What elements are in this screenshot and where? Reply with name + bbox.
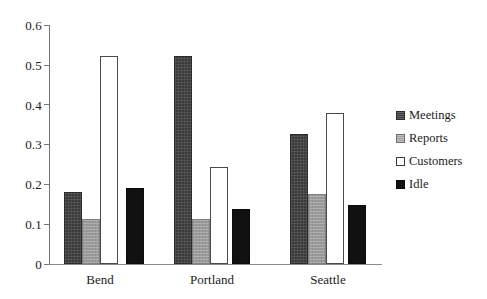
legend-swatch-reports-icon (396, 134, 405, 143)
legend-swatch-customers-icon (396, 157, 405, 166)
bar-group-seattle (290, 25, 380, 264)
y-axis-tick-labels: 0.6 0.5 0.4 0.3 0.2 0.1 0 (0, 0, 42, 299)
legend-label-reports: Reports (409, 132, 448, 145)
bar-seattle-reports (308, 194, 326, 265)
chart-legend: Meetings Reports Customers Idle (396, 104, 486, 196)
y-tick-label: 0.5 (2, 59, 42, 72)
y-tick-label: 0.1 (2, 218, 42, 231)
x-axis-line (49, 264, 382, 265)
bar-group-portland (174, 25, 264, 264)
legend-item-idle: Idle (396, 173, 486, 196)
legend-item-reports: Reports (396, 127, 486, 150)
bar-chart: 0.6 0.5 0.4 0.3 0.2 0.1 0 (0, 0, 487, 299)
bar-portland-customers (210, 167, 228, 264)
legend-label-idle: Idle (409, 178, 428, 191)
bar-bend-idle (126, 188, 144, 264)
legend-item-customers: Customers (396, 150, 486, 173)
x-tick-label-portland: Portland (152, 272, 272, 287)
legend-swatch-meetings-icon (396, 111, 405, 120)
legend-label-meetings: Meetings (409, 109, 456, 122)
legend-label-customers: Customers (409, 155, 462, 168)
bar-seattle-meetings (290, 134, 308, 264)
y-tick-label: 0.3 (2, 138, 42, 151)
y-tick-label: 0.2 (2, 178, 42, 191)
x-tick-label-bend: Bend (40, 272, 160, 287)
legend-item-meetings: Meetings (396, 104, 486, 127)
bar-portland-idle (232, 209, 250, 264)
bar-seattle-idle (348, 205, 366, 264)
bar-bend-meetings (64, 192, 82, 264)
bar-bend-reports (82, 219, 100, 264)
bar-bend-customers (100, 56, 118, 264)
legend-swatch-idle-icon (396, 180, 405, 189)
y-tick-label: 0 (2, 258, 42, 271)
bar-portland-reports (192, 219, 210, 264)
bar-portland-meetings (174, 56, 192, 264)
y-tick-label: 0.6 (2, 19, 42, 32)
x-tick-label-seattle: Seattle (268, 272, 388, 287)
plot-area (50, 25, 380, 264)
bar-group-bend (64, 25, 154, 264)
y-tick-label: 0.4 (2, 99, 42, 112)
bar-seattle-customers (326, 113, 344, 264)
